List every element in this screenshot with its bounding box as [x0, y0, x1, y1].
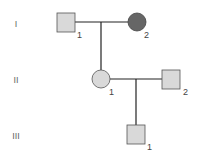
generation-label-ii: II	[13, 75, 18, 85]
individual-ii-1-number: 1	[109, 87, 114, 97]
individual-iii-1-male-square	[127, 125, 145, 144]
individual-ii-2-male-square	[162, 70, 180, 89]
pedigree-chart: I II III 1 2 1 2 1	[0, 0, 198, 161]
generation-label-iii: III	[12, 131, 20, 141]
individual-i-2-affected-female-circle	[128, 13, 146, 31]
individual-iii-1-number: 1	[147, 142, 152, 152]
individual-ii-1-female-circle	[92, 70, 110, 88]
individual-i-1-number: 1	[77, 30, 82, 40]
individual-ii-2-number: 2	[183, 87, 188, 97]
individual-i-2-number: 2	[144, 30, 149, 40]
generation-label-i: I	[15, 19, 18, 29]
individual-i-1-male-square	[57, 13, 75, 32]
